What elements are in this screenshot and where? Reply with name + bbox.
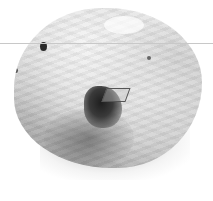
dark-inclusion bbox=[14, 68, 18, 73]
rock-highlight bbox=[104, 16, 144, 34]
dark-inclusion bbox=[147, 56, 151, 60]
horizontal-line bbox=[0, 43, 213, 44]
crystal-facet bbox=[101, 88, 130, 102]
rock-specimen bbox=[14, 8, 202, 168]
photo-scene bbox=[0, 0, 213, 201]
